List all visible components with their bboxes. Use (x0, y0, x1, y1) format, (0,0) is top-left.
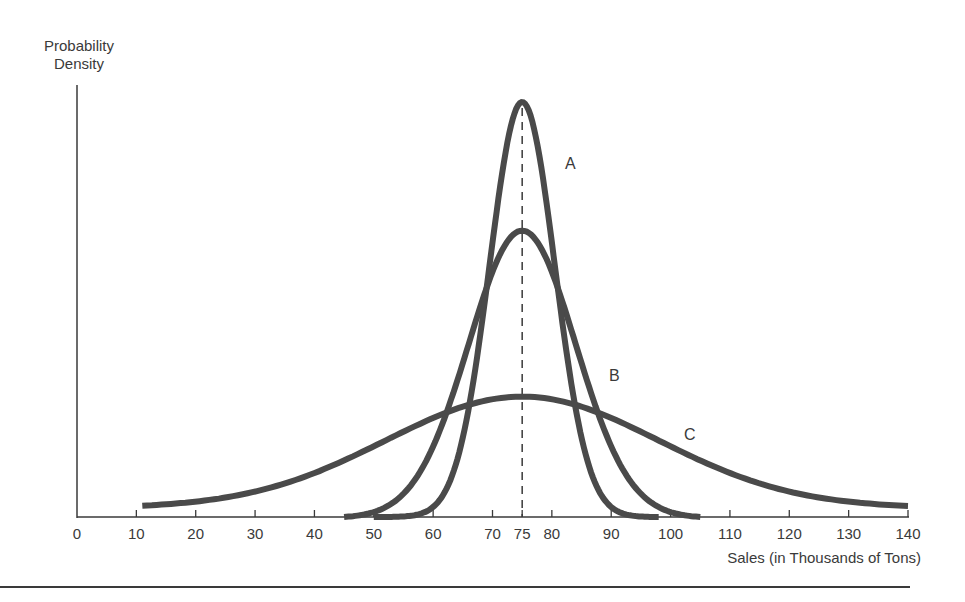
y-axis-label-line2: Density (14, 55, 144, 73)
y-axis-label-line1: Probability (14, 37, 144, 55)
x-axis-tick-labels: 010203040506070758090100110120130140 (73, 525, 921, 542)
x-tick-label: 90 (603, 525, 620, 542)
x-tick-label: 80 (544, 525, 561, 542)
curve-b-label: B (609, 367, 620, 384)
x-tick-label: 140 (895, 525, 920, 542)
x-tick-label: 130 (836, 525, 861, 542)
normal-distribution-chart: 010203040506070758090100110120130140 A B… (0, 0, 965, 602)
x-tick-label: 10 (128, 525, 145, 542)
x-tick-label: 60 (425, 525, 442, 542)
curve-c (142, 397, 908, 506)
curve-a-label: A (565, 155, 576, 172)
x-tick-label: 0 (73, 525, 81, 542)
x-tick-label: 50 (365, 525, 382, 542)
x-axis-label: Sales (in Thousands of Tons) (727, 549, 921, 566)
x-tick-label: 20 (187, 525, 204, 542)
x-tick-label: 30 (247, 525, 264, 542)
curve-c-label: C (684, 426, 696, 443)
x-tick-label: 75 (514, 525, 531, 542)
x-tick-label: 120 (777, 525, 802, 542)
x-tick-label: 40 (306, 525, 323, 542)
footer-divider (0, 586, 910, 588)
x-tick-label: 110 (718, 525, 742, 542)
x-tick-label: 70 (484, 525, 501, 542)
y-axis-label: Probability Density (14, 37, 144, 73)
x-tick-label: 100 (658, 525, 683, 542)
